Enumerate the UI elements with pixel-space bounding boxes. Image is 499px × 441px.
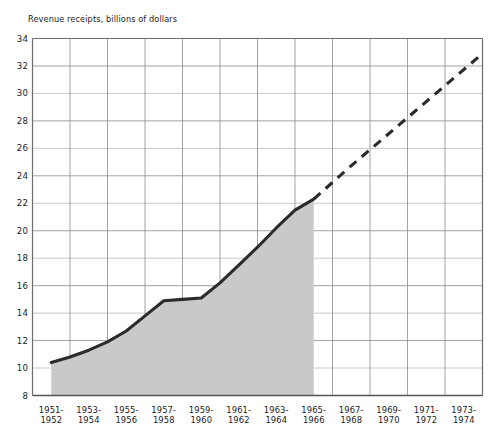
x-tick-label-line2: 1970 bbox=[376, 415, 401, 426]
x-tick-label-line1: 1953- bbox=[76, 405, 101, 416]
revenue-receipts-chart: Revenue receipts, billions of dollars 34… bbox=[0, 0, 499, 441]
y-axis-tick-labels: 343230282624222018161412108 bbox=[0, 0, 28, 441]
y-tick-label: 8 bbox=[4, 391, 28, 401]
y-tick-label: 16 bbox=[4, 281, 28, 291]
y-tick-label: 30 bbox=[4, 88, 28, 98]
x-tick-label-line2: 1974 bbox=[451, 415, 476, 426]
y-tick-label: 28 bbox=[4, 116, 28, 126]
x-tick-label-line1: 1973- bbox=[451, 405, 476, 416]
x-tick-label: 1955-1956 bbox=[114, 405, 139, 426]
x-tick-label-line1: 1963- bbox=[264, 405, 289, 416]
x-tick-label: 1957-1958 bbox=[151, 405, 176, 426]
x-tick-label: 1963-1964 bbox=[264, 405, 289, 426]
x-tick-label-line1: 1971- bbox=[414, 405, 439, 416]
x-tick-label: 1971-1972 bbox=[414, 405, 439, 426]
x-tick-label-line1: 1957- bbox=[151, 405, 176, 416]
x-tick-label-line2: 1972 bbox=[414, 415, 439, 426]
y-tick-label: 10 bbox=[4, 363, 28, 373]
chart-axis-title: Revenue receipts, billions of dollars bbox=[28, 14, 177, 24]
plot-area bbox=[0, 0, 499, 441]
x-tick-label-line2: 1962 bbox=[226, 415, 251, 426]
x-tick-label-line1: 1961- bbox=[226, 405, 251, 416]
line-projected bbox=[314, 54, 483, 200]
x-tick-label: 1973-1974 bbox=[451, 405, 476, 426]
x-tick-label-line2: 1958 bbox=[151, 415, 176, 426]
x-tick-label-line1: 1967- bbox=[339, 405, 364, 416]
y-tick-label: 34 bbox=[4, 34, 28, 44]
x-tick-label: 1951-1952 bbox=[39, 405, 64, 426]
x-tick-label-line1: 1969- bbox=[376, 405, 401, 416]
x-tick-label: 1967-1968 bbox=[339, 405, 364, 426]
x-tick-label-line2: 1954 bbox=[76, 415, 101, 426]
x-tick-label-line2: 1966 bbox=[301, 415, 326, 426]
x-tick-label: 1961-1962 bbox=[226, 405, 251, 426]
y-tick-label: 32 bbox=[4, 61, 28, 71]
x-tick-label-line1: 1955- bbox=[114, 405, 139, 416]
y-tick-label: 20 bbox=[4, 226, 28, 236]
x-tick-label: 1953-1954 bbox=[76, 405, 101, 426]
x-tick-label-line2: 1952 bbox=[39, 415, 64, 426]
x-tick-label: 1965-1966 bbox=[301, 405, 326, 426]
y-tick-label: 26 bbox=[4, 143, 28, 153]
y-tick-label: 14 bbox=[4, 308, 28, 318]
y-tick-label: 12 bbox=[4, 336, 28, 346]
x-tick-label-line1: 1965- bbox=[301, 405, 326, 416]
x-tick-label-line1: 1959- bbox=[189, 405, 214, 416]
y-tick-label: 24 bbox=[4, 171, 28, 181]
x-tick-label: 1969-1970 bbox=[376, 405, 401, 426]
y-tick-label: 22 bbox=[4, 198, 28, 208]
x-tick-label-line2: 1968 bbox=[339, 415, 364, 426]
x-tick-label-line2: 1964 bbox=[264, 415, 289, 426]
y-tick-label: 18 bbox=[4, 253, 28, 263]
x-tick-label-line2: 1956 bbox=[114, 415, 139, 426]
x-tick-label: 1959-1960 bbox=[189, 405, 214, 426]
x-tick-label-line1: 1951- bbox=[39, 405, 64, 416]
x-tick-label-line2: 1960 bbox=[189, 415, 214, 426]
